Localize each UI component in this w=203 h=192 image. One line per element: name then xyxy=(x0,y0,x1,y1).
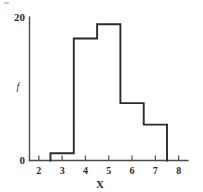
x-tick-label-6: 6 xyxy=(130,165,135,176)
y-axis-top-label: 20 xyxy=(14,11,26,23)
figure-background xyxy=(0,0,203,192)
x-tick-label-8: 8 xyxy=(176,165,181,176)
x-tick-label-5: 5 xyxy=(106,165,111,176)
scan-speck xyxy=(4,2,9,4)
histogram-svg: 20 0 f 2 3 4 5 6 7 8 X xyxy=(0,0,203,192)
x-axis-title: X xyxy=(96,178,104,190)
histogram-figure: 20 0 f 2 3 4 5 6 7 8 X xyxy=(0,0,203,192)
y-axis-zero-label: 0 xyxy=(20,154,26,166)
x-tick-label-2: 2 xyxy=(36,165,41,176)
x-tick-label-4: 4 xyxy=(83,165,88,176)
x-tick-label-7: 7 xyxy=(153,165,158,176)
x-tick-label-3: 3 xyxy=(60,165,65,176)
